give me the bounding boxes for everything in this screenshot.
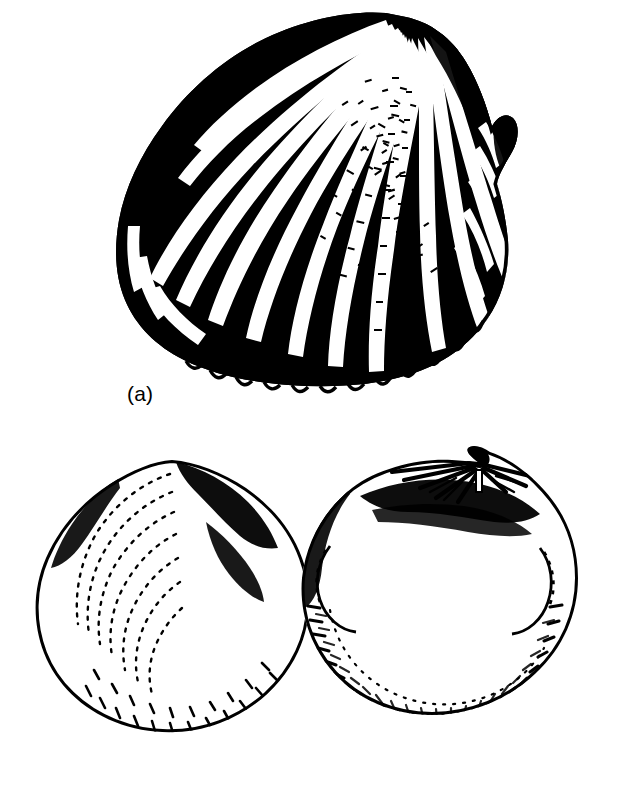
- valve-left-exterior: [20, 440, 330, 760]
- paired-valves-illustration: [0, 430, 625, 791]
- panel-b: (b): [0, 430, 625, 791]
- shell-a-body: [100, 0, 540, 430]
- panel-a: (a): [0, 0, 625, 430]
- valve-right-interior: [290, 440, 600, 760]
- figure-root: (a): [0, 0, 625, 791]
- ribbed-shell-illustration: [0, 0, 625, 430]
- panel-label-a: (a): [127, 383, 153, 404]
